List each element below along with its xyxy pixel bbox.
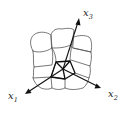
grain-network [31, 28, 92, 89]
x3-label: x3 [83, 7, 93, 21]
grain-cell [52, 88, 65, 90]
grain-cell [33, 48, 53, 67]
coordinate-axes [25, 18, 101, 94]
grain-cell [31, 32, 52, 52]
grain-structure-diagram: x3 x1 x2 [0, 0, 122, 117]
grain-cell [71, 48, 91, 66]
x2-arrowhead-icon [95, 84, 102, 89]
x2-label: x2 [108, 88, 118, 102]
central-cell-inner-edges [56, 61, 70, 79]
x3-arrowhead-icon [76, 18, 81, 26]
x1-arrowhead-icon [25, 89, 32, 95]
x1-label: x1 [8, 90, 18, 104]
grain-cell [73, 36, 92, 53]
